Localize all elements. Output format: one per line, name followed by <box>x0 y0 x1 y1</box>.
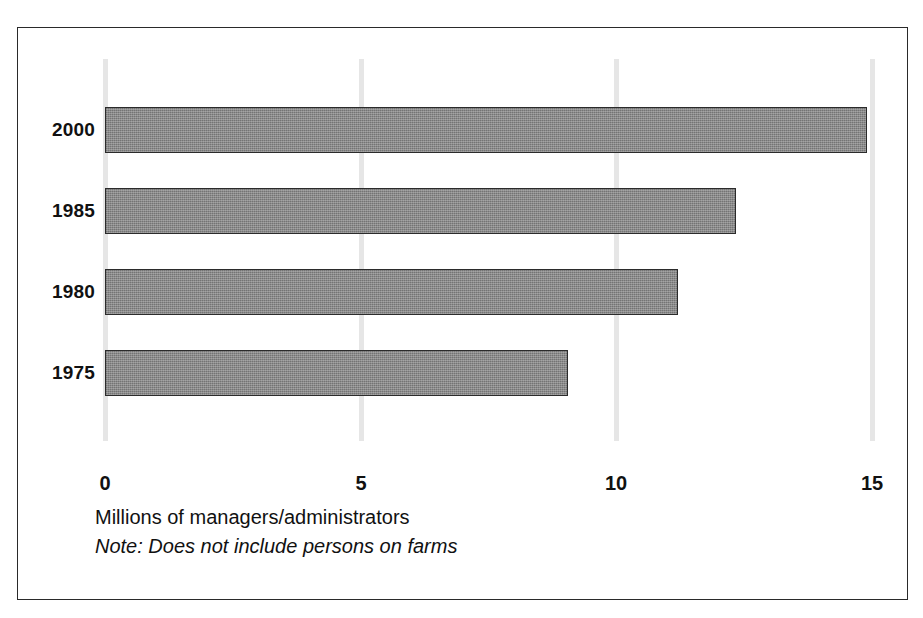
xtick-label-5: 5 <box>331 472 391 495</box>
bar-row-1985: 1985 <box>18 188 909 234</box>
figure-frame: 2000 1985 1980 1975 0 5 10 15 <box>17 27 908 600</box>
category-label-1980: 1980 <box>23 269 95 315</box>
xtick-label-10: 10 <box>586 472 646 495</box>
chart-note: Note: Does not include persons on farms <box>95 535 457 558</box>
plot-area: 2000 1985 1980 1975 0 5 10 15 <box>18 28 909 601</box>
xtick-label-0: 0 <box>75 472 135 495</box>
category-label-1985: 1985 <box>23 188 95 234</box>
bar-row-1980: 1980 <box>18 269 909 315</box>
bar-2000 <box>105 107 867 153</box>
xtick-label-15: 15 <box>842 472 902 495</box>
bar-row-2000: 2000 <box>18 107 909 153</box>
category-label-1975: 1975 <box>23 350 95 396</box>
bar-row-1975: 1975 <box>18 350 909 396</box>
bar-1975 <box>105 350 568 396</box>
category-label-2000: 2000 <box>23 107 95 153</box>
chart-page: 2000 1985 1980 1975 0 5 10 15 <box>0 0 923 618</box>
x-axis-title: Millions of managers/administrators <box>95 506 410 529</box>
bar-1980 <box>105 269 678 315</box>
bar-1985 <box>105 188 736 234</box>
